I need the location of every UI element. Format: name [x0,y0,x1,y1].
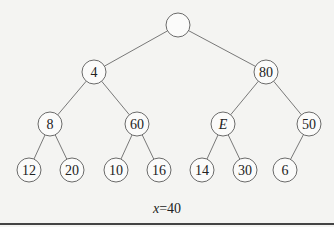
tree-edge [121,135,132,159]
tree-edge [207,135,218,159]
tree-node-n14: 14 [190,158,214,182]
node-label: 14 [195,163,209,178]
tree-edge [228,135,240,159]
tree-node-n30: 30 [233,158,257,182]
tree-node-n50: 50 [297,112,321,136]
tree-nodes: 480860E501220101614306 [17,13,321,182]
tree-edge [55,135,67,159]
tree-edge [231,81,259,115]
node-label: 50 [302,117,316,132]
tree-edge [291,135,304,160]
node-circle [166,13,190,37]
node-label: E [218,117,228,132]
tree-edge [34,135,45,159]
tree-node-n12: 12 [17,158,41,182]
node-label: 10 [109,163,123,178]
tree-node-n6: 6 [273,158,297,182]
caption-value: 40 [167,201,181,216]
tree-node-n60: 60 [125,112,149,136]
tree-node-root [166,13,190,37]
node-label: 12 [22,163,36,178]
node-label: 8 [47,117,54,132]
tree-edge [102,81,130,115]
tree-edge [142,135,154,159]
tree-edge [58,81,86,115]
tree-node-nE: E [211,112,235,136]
bottom-rule [0,223,334,225]
node-label: 16 [152,163,166,178]
node-label: 20 [65,163,79,178]
tree-node-n20: 20 [60,158,84,182]
tree-node-n80: 80 [254,60,278,84]
tree-node-n16: 16 [147,158,171,182]
tree-edge [189,31,256,67]
tree-edges [34,31,303,160]
tree-edge [104,31,167,66]
tree-node-n4: 4 [82,60,106,84]
caption: x=40 [0,201,334,217]
node-label: 30 [238,163,252,178]
tree-edge [274,81,302,115]
node-label: 4 [91,65,98,80]
caption-equals: = [159,201,167,216]
node-label: 60 [130,117,144,132]
tree-diagram: 480860E501220101614306 [0,0,334,227]
node-label: 80 [259,65,273,80]
tree-node-n8: 8 [38,112,62,136]
tree-node-n10: 10 [104,158,128,182]
node-label: 6 [282,163,289,178]
